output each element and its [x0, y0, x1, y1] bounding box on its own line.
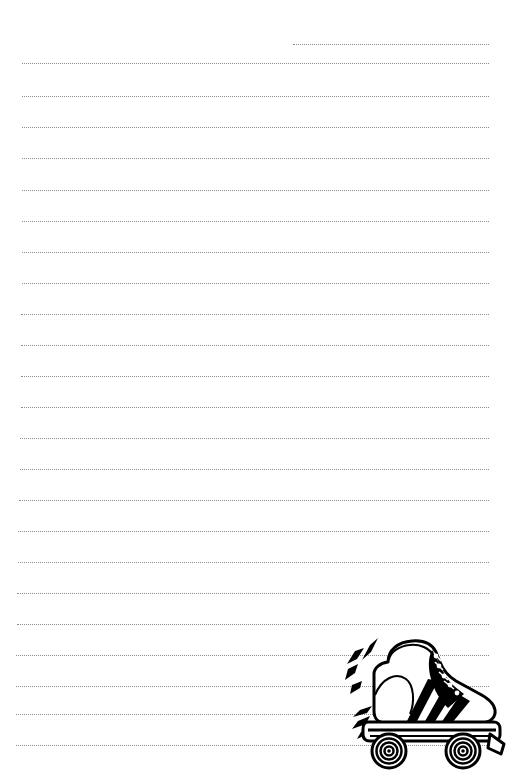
roller-skate-illustration	[344, 634, 506, 770]
ruled-line	[21, 376, 489, 377]
ruled-line	[18, 562, 489, 563]
ruled-line	[21, 345, 489, 346]
ruled-line	[19, 500, 489, 501]
skate-rear-wheel	[446, 734, 480, 768]
skate-toe-stop	[488, 734, 504, 754]
ruled-line	[22, 283, 489, 284]
ruled-line	[17, 624, 489, 625]
ruled-line	[20, 469, 489, 470]
ruled-line	[20, 438, 489, 439]
ruled-line	[21, 314, 489, 315]
ruled-line	[22, 127, 489, 128]
ruled-line	[22, 252, 489, 253]
ruled-line	[22, 96, 489, 97]
ruled-line	[22, 221, 489, 222]
writing-paper-page	[0, 0, 508, 774]
ruled-line	[17, 593, 489, 594]
ruled-line	[22, 158, 489, 159]
ruled-line	[22, 190, 489, 191]
ruled-line	[22, 63, 489, 64]
skate-front-wheel	[372, 734, 406, 768]
ruled-line	[21, 407, 489, 408]
ruled-line	[293, 44, 489, 45]
ruled-line	[18, 531, 489, 532]
